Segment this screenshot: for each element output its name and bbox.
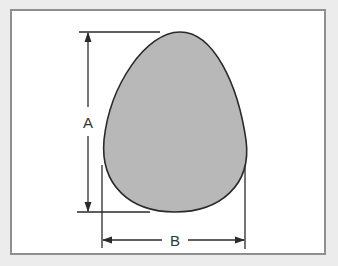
label-a: A <box>83 114 93 131</box>
label-b: B <box>170 232 180 249</box>
egg-dimension-diagram: A B <box>0 0 338 266</box>
egg-shape <box>104 32 247 212</box>
